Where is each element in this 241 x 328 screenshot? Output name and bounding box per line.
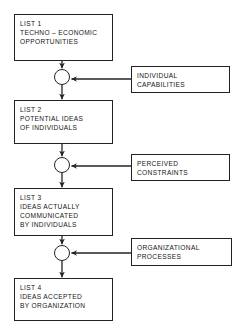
list-3-line-2: IDEAS ACTUALLY <box>20 202 112 211</box>
flowchart-diagram: LIST 1 TECHNO – ECONOMIC OPPORTUNITIES L… <box>0 0 241 328</box>
list-4-box: LIST 4 IDEAS ACCEPTED BY ORGANIZATION <box>14 278 113 321</box>
organizational-processes-box: ORGANIZATIONAL PROCESSES <box>131 238 232 266</box>
perceived-constraints-line-1: PERCEIVED <box>137 159 229 168</box>
junction-node-1 <box>54 69 70 85</box>
list-2-line-1: LIST 2 <box>20 105 112 114</box>
list-2-line-3: OF INDIVIDUALS <box>20 123 112 132</box>
junction-node-3 <box>54 245 70 261</box>
list-3-line-3: COMMUNICATED <box>20 211 112 220</box>
list-1-box: LIST 1 TECHNO – ECONOMIC OPPORTUNITIES <box>14 14 113 61</box>
list-1-line-3: OPPORTUNITIES <box>20 37 112 46</box>
list-4-line-1: LIST 4 <box>20 283 112 292</box>
junction-node-2 <box>54 157 70 173</box>
organizational-processes-line-2: PROCESSES <box>137 252 231 261</box>
list-1-line-1: LIST 1 <box>20 19 112 28</box>
organizational-processes-line-1: ORGANIZATIONAL <box>137 243 231 252</box>
list-3-box: LIST 3 IDEAS ACTUALLY COMMUNICATED BY IN… <box>14 188 113 236</box>
perceived-constraints-line-2: CONSTRAINTS <box>137 168 229 177</box>
list-4-line-3: BY ORGANIZATION <box>20 301 112 310</box>
list-3-line-4: BY INDIVIDUALS <box>20 220 112 229</box>
individual-capabilities-line-1: INDIVIDUAL <box>137 71 229 80</box>
individual-capabilities-line-2: CAPABILITIES <box>137 80 229 89</box>
list-1-line-2: TECHNO – ECONOMIC <box>20 28 112 37</box>
list-2-line-2: POTENTIAL IDEAS <box>20 114 112 123</box>
individual-capabilities-box: INDIVIDUAL CAPABILITIES <box>131 66 230 93</box>
list-2-box: LIST 2 POTENTIAL IDEAS OF INDIVIDUALS <box>14 100 113 144</box>
list-3-line-1: LIST 3 <box>20 193 112 202</box>
list-4-line-2: IDEAS ACCEPTED <box>20 292 112 301</box>
perceived-constraints-box: PERCEIVED CONSTRAINTS <box>131 154 230 181</box>
